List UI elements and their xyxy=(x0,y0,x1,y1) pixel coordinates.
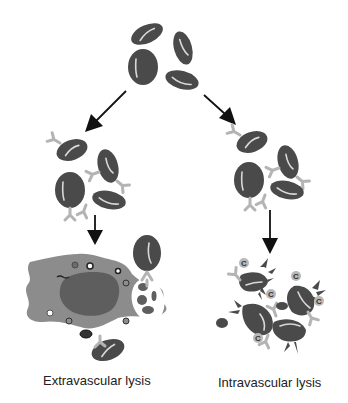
granule xyxy=(72,262,78,268)
granule xyxy=(66,318,72,324)
nucleus xyxy=(60,272,120,316)
granule xyxy=(47,310,53,316)
antibody xyxy=(256,193,270,208)
antibody xyxy=(77,203,91,218)
antibody xyxy=(227,125,242,140)
svg-text:C: C xyxy=(268,290,274,299)
macrophage xyxy=(26,235,169,365)
rbc xyxy=(128,49,158,85)
lysis-diagram: C C C C C xyxy=(0,0,348,403)
free-rbcs-group xyxy=(128,19,201,93)
granule xyxy=(123,318,129,324)
rbc xyxy=(234,127,271,157)
granule xyxy=(87,263,93,269)
antibody xyxy=(47,133,62,148)
opsonized-rbcs-left xyxy=(47,133,129,220)
lysed-rbc xyxy=(272,319,306,354)
rbc xyxy=(133,235,161,271)
antibody xyxy=(65,208,75,220)
complement: C xyxy=(239,258,249,268)
antibody xyxy=(86,167,101,181)
lysed-rbcs: C C C C C xyxy=(216,258,326,354)
arrow-to-right xyxy=(204,95,236,125)
opsonized-rbcs-right xyxy=(227,125,309,210)
rbc xyxy=(170,29,196,67)
intravascular-lysis-label: Intravascular lysis xyxy=(218,375,321,390)
rbc xyxy=(54,135,91,165)
rbc-fragment xyxy=(216,318,228,328)
arrow-to-left xyxy=(85,91,126,132)
granule xyxy=(116,269,121,274)
complement: C xyxy=(291,271,301,281)
svg-text:C: C xyxy=(241,259,247,268)
rbc xyxy=(163,67,201,93)
arrow-to-lysis xyxy=(262,210,278,254)
complement: C xyxy=(266,289,276,299)
rbc xyxy=(274,143,302,181)
extravascular-lysis-label: Extravascular lysis xyxy=(43,373,151,388)
svg-text:C: C xyxy=(316,297,322,306)
rbc xyxy=(94,147,122,185)
mitochondrion xyxy=(80,330,92,338)
antibody xyxy=(245,198,255,210)
antibody xyxy=(266,163,281,177)
lysed-rbc xyxy=(228,300,273,335)
svg-text:C: C xyxy=(293,272,299,281)
rbc xyxy=(55,172,85,208)
rbc xyxy=(128,19,166,50)
granule xyxy=(123,280,129,286)
complement: C xyxy=(314,296,324,306)
svg-text:C: C xyxy=(255,334,261,343)
rbc-fragment xyxy=(276,302,288,310)
complement: C xyxy=(253,333,263,343)
rbc xyxy=(89,335,128,365)
arrow-to-macrophage xyxy=(87,215,103,245)
rbc xyxy=(234,162,264,198)
